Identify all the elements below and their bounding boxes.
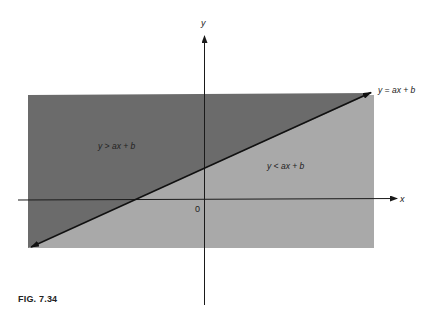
region-above-label: y > ax + b xyxy=(97,141,136,151)
figure-caption: FIG. 7.34 xyxy=(18,294,57,304)
x-axis-label: x xyxy=(399,194,405,204)
origin-label: 0 xyxy=(195,204,200,214)
region-below-label: y < ax + b xyxy=(266,161,305,171)
line-equation-label: y = ax + b xyxy=(377,85,416,95)
inequality-diagram: y x 0 y = ax + b y > ax + b y < ax + b xyxy=(0,0,445,325)
y-axis-label: y xyxy=(200,18,206,28)
